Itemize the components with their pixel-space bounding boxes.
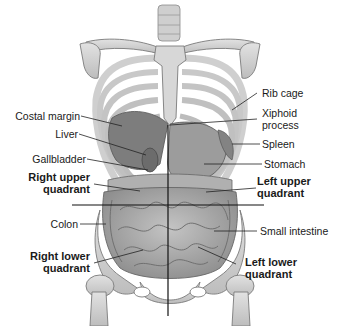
label-right-upper-quadrant-line1: Right upper (4, 171, 90, 183)
label-right-lower-quadrant: Right lower quadrant (4, 250, 90, 274)
label-right-lower-quadrant-line2: quadrant (4, 262, 90, 274)
label-xiphoid-process: Xiphoid process (262, 107, 299, 131)
label-left-upper-quadrant-line2: quadrant (257, 187, 311, 199)
label-left-upper-quadrant-line1: Left upper (257, 175, 311, 187)
gallbladder-illustration (142, 148, 158, 172)
label-costal-margin: Costal margin (4, 110, 80, 122)
label-right-upper-quadrant-line2: quadrant (4, 183, 90, 195)
label-stomach: Stomach (264, 158, 305, 170)
label-left-lower-quadrant-line1: Left lower (245, 256, 297, 268)
liver-illustration (109, 111, 168, 169)
label-spleen: Spleen (262, 138, 295, 150)
label-colon: Colon (4, 218, 78, 230)
label-rib-cage: Rib cage (262, 87, 303, 99)
label-xiphoid-line1: Xiphoid (262, 107, 299, 119)
label-liver: Liver (4, 128, 78, 140)
abdominal-quadrants-diagram: Costal margin Liver Gallbladder Right up… (0, 0, 340, 326)
label-left-lower-quadrant: Left lower quadrant (245, 256, 297, 280)
label-right-upper-quadrant: Right upper quadrant (4, 171, 90, 195)
label-small-intestine: Small intestine (260, 225, 328, 237)
cervical-spine (158, 5, 180, 41)
label-right-lower-quadrant-line1: Right lower (4, 250, 90, 262)
label-left-lower-quadrant-line2: quadrant (245, 268, 297, 280)
label-left-upper-quadrant: Left upper quadrant (257, 175, 311, 199)
label-xiphoid-line2: process (262, 119, 299, 131)
intestines-illustration (103, 188, 238, 279)
label-gallbladder: Gallbladder (4, 153, 86, 165)
